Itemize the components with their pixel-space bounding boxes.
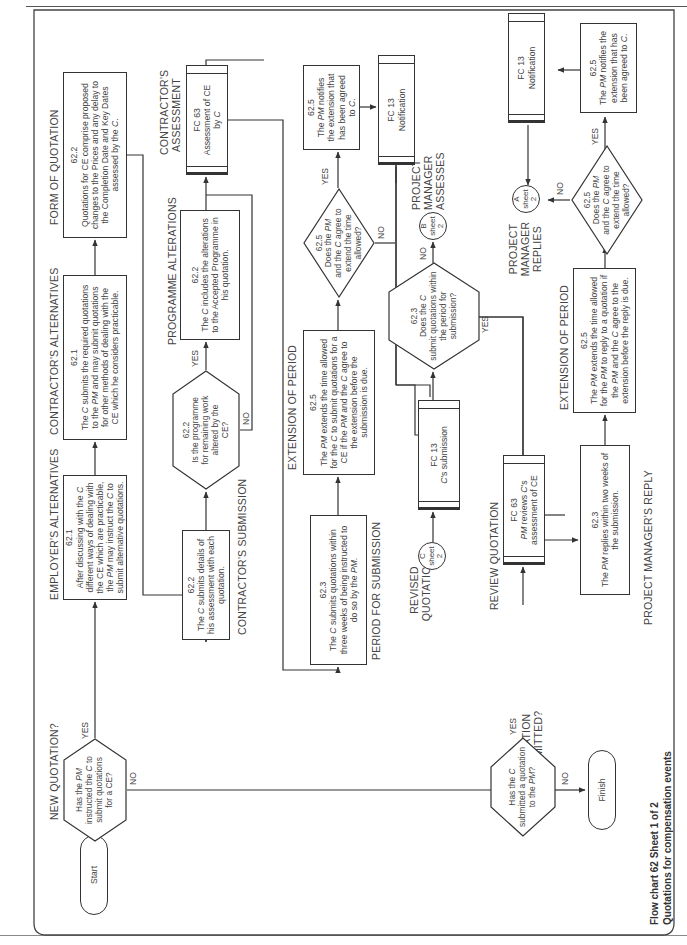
edge-no-programme: NO <box>241 412 251 425</box>
fc63a-c: C <box>212 111 222 117</box>
n2-a: The <box>598 88 608 105</box>
decision-extend-time-2[interactable]: 62.5 Does the PM and the C agree to exte… <box>571 145 643 255</box>
e2-d: and the <box>610 337 620 370</box>
dp-l4: CE? <box>221 422 231 438</box>
rb-pm: PM <box>600 557 610 570</box>
de2-l2b: agree to <box>601 165 611 198</box>
n1-ref: 62.5 <box>306 99 316 116</box>
fc13-notification-process-1[interactable]: FC 13 Notification <box>378 55 415 165</box>
fc63r-c: C <box>519 486 529 492</box>
e1-a: The <box>319 449 329 466</box>
ca-a: The <box>80 413 90 430</box>
pa-ref: 62.2 <box>190 267 200 284</box>
decision-new-quotation[interactable]: Has the PM instructed the C to submit qu… <box>63 738 127 842</box>
fc63a-ref: FC 63 <box>192 108 202 131</box>
decision-within-period[interactable]: 62.3 Does the C submit quotations within… <box>388 262 480 370</box>
de2-l1a: Does the <box>591 188 601 224</box>
conn-a-l2: 2 <box>530 197 539 201</box>
dqs-l3a: to the <box>527 784 537 807</box>
n1-pm: PM <box>316 107 326 120</box>
contractor-alternatives-box[interactable]: 62.1 The C submits the required quotatio… <box>63 275 127 440</box>
fc13s-l1: 's submission <box>439 426 449 477</box>
dqs-l1a: Has the <box>507 774 517 805</box>
start-terminator[interactable]: Start <box>80 835 108 915</box>
fq-text: Quotations for CE comprise proposed chan… <box>80 81 121 229</box>
decision-extend-time-1[interactable]: 62.5 Does the PM and the C agree to exte… <box>303 188 375 298</box>
section-extension-of-period-2: EXTENSION OF PERIOD <box>558 285 570 410</box>
eb-a: After discussing with the <box>75 493 85 588</box>
rb-a: The <box>600 570 610 587</box>
start-label: Start <box>89 866 99 884</box>
extension-of-period-box-1[interactable]: 62.5 The PM extends the time allowed for… <box>303 330 375 475</box>
pm-replies-line2: MANAGER <box>519 222 531 277</box>
pm-reply-box[interactable]: 62.3 The PM replies within two weeks of … <box>580 445 630 595</box>
fc13s-ref: FC 13 <box>429 443 439 466</box>
fc63r-l2: assessment of CE <box>529 475 539 545</box>
edge-yes-extend-1: YES <box>320 168 330 185</box>
edge-no-quote-submitted: NO <box>560 772 570 785</box>
section-contractors-assessment-line2: ASSESSMENT <box>170 78 182 152</box>
decision-quotation-submitted[interactable]: Has the C submitted a quotation to the P… <box>490 737 556 837</box>
ca-c: C <box>80 407 90 413</box>
form-of-quotation-box[interactable]: 62.2 Quotations for CE comprise proposed… <box>63 72 127 238</box>
fc13n2-ref: FC 13 <box>516 56 526 79</box>
section-programme-alterations: PROGRAMME ALTERATIONS <box>166 197 178 345</box>
employer-ref: 62.1 <box>64 529 74 546</box>
fc63-review-process[interactable]: FC 63 PM reviews C's assessment of CE <box>503 455 545 565</box>
contractor-submission-box[interactable]: 62.2 The C submits details of his assess… <box>182 530 230 640</box>
decision-programme-altered[interactable]: 62.2 Is the programme for remaining work… <box>172 370 240 490</box>
connector-a-sheet-2[interactable]: A sheet 2 <box>512 185 540 213</box>
programme-alterations-box[interactable]: 62.2 The C includes the alterations to t… <box>180 210 240 340</box>
de2-l4: allowed? <box>622 183 632 216</box>
pm-assesses-line1: PROJECT <box>410 160 422 210</box>
dw-l1a: Does the <box>418 301 428 337</box>
fq-ref: 62.2 <box>69 147 79 164</box>
section-extension-of-period-1: EXTENSION OF PERIOD <box>286 345 298 470</box>
ca-ref: 62.1 <box>69 349 79 366</box>
fc63a-l1: Assessment of CE <box>202 85 212 156</box>
fc13s-c: C <box>439 478 449 484</box>
fq-c: C <box>110 121 120 127</box>
cs-a: The <box>196 614 206 631</box>
de1-pm: PM <box>323 219 333 232</box>
process-bar-right <box>419 408 459 409</box>
fc63r-l1: reviews <box>519 493 529 527</box>
dq-pm: PM <box>74 768 84 781</box>
e2-pm2: PM <box>599 367 609 380</box>
section-review-quotation: REVIEW QUOTATION <box>488 502 500 610</box>
edge-no-new-quote: NO <box>128 772 138 785</box>
de1-l2b: agree to <box>333 208 343 241</box>
fc13-submission-process[interactable]: FC 13 C's submission <box>418 400 460 510</box>
e2-a: The <box>589 387 599 404</box>
e1-d: and the <box>339 382 349 415</box>
fc63-assessment-process[interactable]: FC 63 Assessment of CE by C <box>186 65 228 175</box>
section-contractors-alternatives: CONTRACTOR'S ALTERNATIVES <box>48 268 60 435</box>
finish-label: Finish <box>597 779 607 802</box>
notify-extension-box-2[interactable]: 62.5 The PM notifies the extension that … <box>580 23 637 113</box>
connector-c-sheet-2[interactable]: C sheet 2 <box>418 542 446 570</box>
pa-c: C <box>200 308 210 314</box>
e1-c2: C <box>339 376 349 382</box>
de2-c: C <box>601 198 611 204</box>
edge-no-extend-2: NO <box>555 182 565 195</box>
edge-yes-within-period: YES <box>480 316 490 333</box>
finish-terminator[interactable]: Finish <box>588 750 616 830</box>
employer-alternatives-box[interactable]: 62.1 After discussing with the C differe… <box>63 475 127 600</box>
section-period-for-submission: PERIOD FOR SUBMISSION <box>370 522 382 660</box>
section-project-managers-reply: PROJECT MANAGER'S REPLY <box>642 470 654 625</box>
notify-extension-box-1[interactable]: 62.5 The PM notifies the extension that … <box>303 65 360 150</box>
process-bar-right <box>504 463 544 464</box>
process-bar-left <box>187 166 227 167</box>
extension-of-period-box-2[interactable]: 62.5 The PM extends the time allowed for… <box>573 268 636 413</box>
e2-pm1: PM <box>589 374 599 387</box>
edge-yes-extend-2: YES <box>590 128 600 145</box>
pm-assesses-line3: ASSESSES <box>434 152 446 210</box>
edge-yes-quote-submitted: YES <box>508 718 518 735</box>
fc13-notification-process-2[interactable]: FC 13 Notification <box>508 13 545 123</box>
period-for-submission-box[interactable]: 62.3 The C submits quotations within thr… <box>310 515 367 665</box>
e2-pm3: PM <box>610 371 620 384</box>
section-contractors-submission: CONTRACTOR'S SUBMISSION <box>236 479 248 635</box>
fc63r-l1b: 's <box>519 481 529 487</box>
connector-b-sheet-2[interactable]: B sheet 2 <box>419 212 447 240</box>
pb-pm: PM <box>349 560 359 573</box>
